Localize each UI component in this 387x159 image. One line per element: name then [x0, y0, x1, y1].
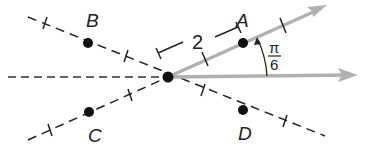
angle-arc — [258, 40, 267, 76]
label-c: C — [88, 125, 102, 146]
label-d: D — [238, 123, 252, 144]
point-d — [238, 105, 248, 115]
point-a — [238, 38, 248, 48]
point-c — [84, 107, 94, 117]
angle-numerator: π — [269, 39, 279, 56]
pole-point — [163, 72, 174, 83]
label-b: B — [86, 10, 99, 31]
polar-diagram: 2 π 6 A B C D — [0, 0, 387, 159]
point-b — [83, 38, 93, 48]
polar-axis-ray — [168, 75, 350, 77]
length-label: 2 — [192, 31, 203, 53]
angle-denominator: 6 — [270, 56, 278, 73]
label-a: A — [235, 10, 249, 31]
